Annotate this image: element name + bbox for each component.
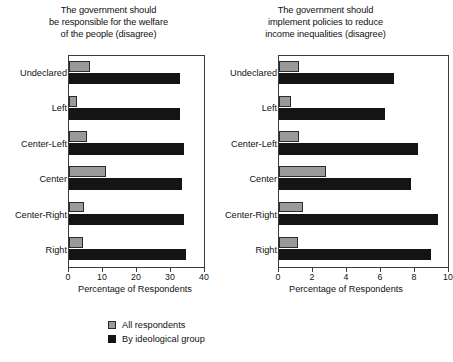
x-axis-right: 0246810 [278, 268, 449, 282]
chart-title-right: The government should implement policies… [217, 4, 434, 41]
legend-swatch-icon-ideological [108, 335, 116, 343]
bar-all-respondents-undeclared [69, 61, 90, 72]
x-tick-label-6: 6 [378, 272, 383, 282]
bar-all-respondents-center-left [69, 131, 87, 142]
bar-all-respondents-left [69, 96, 77, 107]
x-tick-label-0: 0 [276, 272, 281, 282]
legend-item-ideological: By ideological group [108, 332, 205, 346]
x-tick-label-30: 30 [165, 272, 175, 282]
legend-swatch-icon-all [108, 321, 116, 329]
y-axis-category-right: Right [157, 245, 277, 255]
bar-group-left [279, 91, 448, 126]
bar-all-respondents-right [69, 237, 83, 248]
y-axis-category-center-left: Center-Left [0, 139, 67, 149]
bar-all-respondents-center [279, 166, 326, 177]
x-tick-label-2: 2 [310, 272, 315, 282]
x-axis-label-left: Percentage of Respondents [40, 284, 230, 295]
y-axis-category-undeclared: Undeclared [0, 68, 67, 78]
bar-all-respondents-center [69, 166, 106, 177]
bar-rows-left [69, 56, 204, 267]
bar-all-respondents-left [279, 96, 291, 107]
bar-group-center [279, 161, 448, 196]
x-tick-label-8: 8 [412, 272, 417, 282]
bar-ideological-group-center-right [279, 214, 438, 226]
bar-ideological-group-center-left [279, 143, 418, 155]
plot-area-left [68, 55, 205, 268]
bar-group-center-right [279, 197, 448, 232]
y-axis-category-center: Center [0, 174, 67, 184]
y-axis-category-undeclared: Undeclared [157, 68, 277, 78]
x-axis-label-right: Percentage of Respondents [251, 284, 441, 295]
bar-ideological-group-left [279, 108, 385, 120]
bar-all-respondents-center-right [69, 202, 84, 213]
bar-ideological-group-undeclared [279, 73, 394, 85]
legend-label-all: All respondents [122, 318, 185, 332]
x-tick-label-20: 20 [131, 272, 141, 282]
y-axis-category-left: Left [0, 103, 67, 113]
chart-title-left: The government should be responsible for… [0, 4, 217, 41]
bar-all-respondents-center-left [279, 131, 299, 142]
x-tick-label-4: 4 [344, 272, 349, 282]
bar-all-respondents-right [279, 237, 298, 248]
x-tick-label-10: 10 [97, 272, 107, 282]
y-axis-category-center-right: Center-Right [0, 210, 67, 220]
y-axis-category-left: Left [157, 103, 277, 113]
legend: All respondents By ideological group [108, 318, 205, 346]
bar-all-respondents-center-right [279, 202, 303, 213]
bar-group-right [279, 232, 448, 267]
legend-item-all: All respondents [108, 318, 205, 332]
y-axis-category-center-right: Center-Right [157, 210, 277, 220]
bar-ideological-group-right [279, 249, 431, 261]
chart-panel-right: The government should implement policies… [217, 0, 434, 300]
bar-all-respondents-undeclared [279, 61, 299, 72]
x-tick-label-10: 10 [443, 272, 453, 282]
x-tick-label-40: 40 [199, 272, 209, 282]
y-axis-category-right: Right [0, 245, 67, 255]
bar-group-center-left [279, 126, 448, 161]
x-axis-left: 010203040 [68, 268, 205, 282]
x-tick-label-0: 0 [66, 272, 71, 282]
plot-area-right [278, 55, 449, 268]
legend-label-ideological: By ideological group [122, 332, 205, 346]
y-axis-category-center: Center [157, 174, 277, 184]
bar-ideological-group-center [279, 178, 411, 190]
bar-rows-right [279, 56, 448, 267]
bar-group-undeclared [279, 56, 448, 91]
y-axis-category-center-left: Center-Left [157, 139, 277, 149]
